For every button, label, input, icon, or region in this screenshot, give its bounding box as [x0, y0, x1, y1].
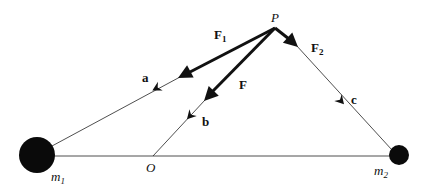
label-m2-main: m [374, 163, 383, 178]
label-F1: F1 [214, 27, 227, 44]
label-m1-main: m [51, 169, 60, 184]
arrow-c-icon [334, 94, 347, 107]
mass-m2 [389, 145, 409, 165]
label-O: O [146, 160, 156, 175]
label-m2: m2 [374, 163, 388, 180]
force-F2-arrow [275, 28, 303, 52]
label-P: P [270, 10, 279, 25]
label-m2-sub: 2 [383, 170, 388, 180]
label-F2-main: F [311, 40, 319, 55]
arrow-a-icon [150, 82, 163, 95]
label-a: a [142, 70, 149, 85]
force-F-arrow [199, 28, 275, 106]
mass-m1 [19, 137, 55, 173]
label-m1-sub: 1 [60, 176, 65, 186]
label-F2-sub: 2 [319, 47, 324, 57]
line-a [52, 77, 180, 146]
label-m1: m1 [51, 169, 65, 186]
line-c [296, 45, 392, 150]
gravity-vector-diagram: P O m1 m2 F1 F F2 a b c [0, 0, 430, 192]
line-b [153, 100, 205, 156]
label-F: F [239, 77, 247, 92]
label-c: c [351, 92, 357, 107]
label-F2: F2 [311, 40, 324, 57]
label-b: b [202, 114, 209, 129]
label-F1-main: F [214, 27, 222, 42]
label-F1-sub: 1 [222, 34, 227, 44]
